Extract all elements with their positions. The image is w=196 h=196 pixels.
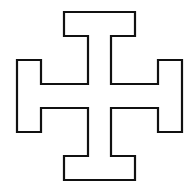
- cross-potent-icon: [0, 0, 196, 196]
- cross-outline: [17, 12, 182, 180]
- cross-potent-figure: [0, 0, 196, 196]
